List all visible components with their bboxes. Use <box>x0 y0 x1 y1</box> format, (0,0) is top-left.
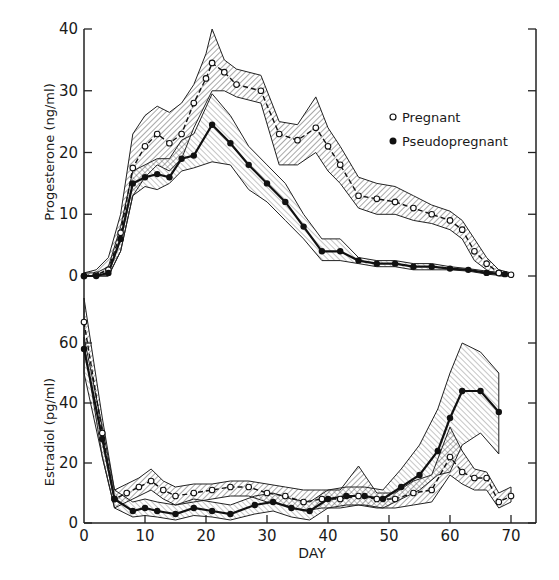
legend-pregnant-label: Pregnant <box>402 110 460 125</box>
progesterone-pregnant-point <box>313 125 319 131</box>
estradiol-pregnant-point <box>136 484 142 490</box>
estradiol-pregnant-point <box>264 490 270 496</box>
progesterone-ytick-label: 0 <box>68 267 78 285</box>
estradiol-pseudopregnant-point <box>416 472 422 478</box>
estradiol-pregnant-point <box>124 490 130 496</box>
estradiol-pregnant-point <box>484 475 490 481</box>
estradiol-pseudopregnant-point <box>111 496 117 502</box>
legend: Pregnant Pseudopregnant <box>390 110 508 149</box>
x-axis-title: DAY <box>298 545 326 561</box>
estradiol-pseudopregnant-point <box>435 448 441 454</box>
estradiol-pregnant-point <box>228 484 234 490</box>
progesterone-ytick-label: 30 <box>59 82 78 100</box>
estradiol-pseudopregnant-point <box>81 346 87 352</box>
estradiol-pregnant-point <box>472 475 478 481</box>
xtick-label: 0 <box>79 527 89 545</box>
progesterone-pregnant-point <box>209 60 215 66</box>
progesterone-pregnant-point <box>295 137 301 143</box>
estradiol-pregnant-point <box>459 469 465 475</box>
progesterone-ytick-label: 40 <box>59 20 78 38</box>
progesterone-pregnant-point <box>484 261 490 267</box>
estradiol-pseudopregnant-point <box>496 409 502 415</box>
estradiol-pseudopregnant-point <box>270 499 276 505</box>
xtick-label: 60 <box>440 527 459 545</box>
estradiol-pregnant-point <box>301 499 307 505</box>
estradiol-pregnant-point <box>337 496 343 502</box>
xtick-label: 70 <box>501 527 520 545</box>
bands <box>84 29 511 520</box>
estradiol-pseudopregnant-point <box>99 436 105 442</box>
estradiol-pregnant-point <box>209 487 215 493</box>
progesterone-pseudopregnant-point <box>227 140 233 146</box>
hormone-chart: 0102030400204060010203040506070 Progeste… <box>0 0 559 580</box>
estradiol-pregnant-point <box>161 487 167 493</box>
progesterone-pregnant-point <box>191 100 197 106</box>
progesterone-pseudopregnant-point <box>447 265 453 271</box>
estradiol-pseudopregnant-point <box>130 508 136 514</box>
progesterone-pseudopregnant-point <box>93 273 99 279</box>
estradiol-pseudopregnant-point <box>307 508 313 514</box>
progesterone-pregnant-error-band <box>84 29 511 276</box>
progesterone-pseudopregnant-point <box>178 155 184 161</box>
estradiol-pregnant-point <box>319 496 325 502</box>
progesterone-pregnant-point <box>374 196 380 202</box>
estradiol-pregnant-point <box>392 496 398 502</box>
estradiol-pseudopregnant-point <box>191 505 197 511</box>
xtick-label: 50 <box>379 527 398 545</box>
progesterone-pseudopregnant-point <box>105 270 111 276</box>
progesterone-pregnant-point <box>276 131 282 137</box>
progesterone-ytick-label: 10 <box>59 205 78 223</box>
progesterone-pseudopregnant-point <box>282 199 288 205</box>
progesterone-pseudopregnant-point <box>209 122 215 128</box>
progesterone-pseudopregnant-point <box>264 180 270 186</box>
xtick-label: 20 <box>196 527 215 545</box>
legend-pseudopregnant-marker <box>390 138 397 145</box>
legend-pseudopregnant-label: Pseudopregnant <box>402 134 508 149</box>
estradiol-pseudopregnant-point <box>447 415 453 421</box>
estradiol-pregnant-point <box>81 319 87 325</box>
progesterone-pseudopregnant-point <box>502 271 508 277</box>
progesterone-pregnant-point <box>142 144 148 150</box>
estradiol-pregnant-point <box>173 493 179 499</box>
estradiol-pregnant-point <box>246 484 252 490</box>
axes-frame <box>84 29 536 523</box>
progesterone-pregnant-point <box>459 227 465 233</box>
progesterone-pregnant-point <box>179 131 185 137</box>
estradiol-pseudopregnant-point <box>361 493 367 499</box>
estradiol-pregnant-point <box>508 493 514 499</box>
progesterone-pseudopregnant-point <box>429 264 435 270</box>
progesterone-pseudopregnant-point <box>191 152 197 158</box>
xtick-label: 30 <box>257 527 276 545</box>
estradiol-pregnant-point <box>429 487 435 493</box>
progesterone-ytick-label: 20 <box>59 144 78 162</box>
xtick-label: 40 <box>318 527 337 545</box>
progesterone-pseudopregnant-point <box>465 267 471 273</box>
progesterone-pregnant-point <box>325 144 331 150</box>
progesterone-pregnant-point <box>392 199 398 205</box>
estradiol-pregnant-point <box>356 493 362 499</box>
estradiol-ytick-label: 40 <box>59 394 78 412</box>
progesterone-pregnant-point <box>356 193 362 199</box>
y-axis-title-progesterone: Progesterone (ng/ml) <box>42 83 57 220</box>
progesterone-pseudopregnant-point <box>154 171 160 177</box>
estradiol-ytick-label: 20 <box>59 454 78 472</box>
progesterone-pregnant-point <box>337 162 343 168</box>
xtick-label: 10 <box>135 527 154 545</box>
estradiol-pregnant-point <box>411 490 417 496</box>
estradiol-pregnant-point <box>191 490 197 496</box>
progesterone-pseudopregnant-point <box>483 270 489 276</box>
progesterone-pseudopregnant-point <box>355 257 361 263</box>
estradiol-pseudopregnant-point <box>154 508 160 514</box>
estradiol-pseudopregnant-point <box>477 388 483 394</box>
estradiol-pseudopregnant-point <box>209 508 215 514</box>
estradiol-pseudopregnant-point <box>227 511 233 517</box>
progesterone-pseudopregnant-point <box>130 180 136 186</box>
progesterone-pregnant-point <box>130 165 136 171</box>
estradiol-pregnant-point <box>100 430 106 436</box>
progesterone-pseudopregnant-point <box>81 273 87 279</box>
progesterone-pregnant-point <box>234 82 240 88</box>
estradiol-pseudopregnant-point <box>142 505 148 511</box>
y-axis-title-estradiol: Estradiol (pg/ml) <box>42 378 57 486</box>
estradiol-pseudopregnant-point <box>325 496 331 502</box>
progesterone-pseudopregnant-point <box>300 223 306 229</box>
